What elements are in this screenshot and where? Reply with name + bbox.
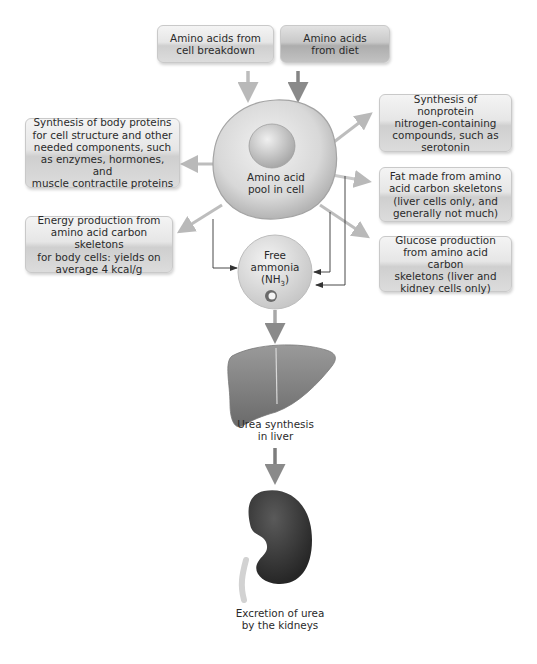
box-text-line: Amino acids bbox=[303, 32, 366, 44]
arrow-pool-to-glucose bbox=[320, 205, 365, 235]
label-line: Amino acid bbox=[236, 171, 316, 183]
line-glucose-to-ammonia bbox=[314, 212, 330, 272]
label-line: ammonia bbox=[240, 261, 310, 273]
box-text-line: average 4 kcal/g bbox=[30, 263, 168, 275]
box-amino-acids-cell-breakdown: Amino acids from cell breakdown bbox=[157, 25, 274, 63]
box-text-line: cell breakdown bbox=[170, 44, 261, 56]
label-line: Excretion of urea bbox=[225, 607, 335, 619]
box-text-line: from diet bbox=[303, 44, 366, 56]
box-text-line: Synthesis of nonprotein bbox=[384, 93, 507, 117]
box-text-line: for cell structure and other bbox=[30, 129, 175, 141]
box-text-line: as enzymes, hormones, and bbox=[30, 153, 175, 177]
label-line: Free bbox=[240, 249, 310, 261]
box-amino-acids-diet: Amino acids from diet bbox=[280, 25, 390, 63]
amino-acid-pool-label: Amino acid pool in cell bbox=[236, 171, 316, 195]
label-line: by the kidneys bbox=[225, 619, 335, 631]
box-text-line: Synthesis of body proteins bbox=[30, 116, 175, 128]
box-fat-from-amino-acids: Fat made from amino acid carbon skeleton… bbox=[379, 167, 512, 222]
box-text-line: generally not much) bbox=[389, 207, 502, 219]
box-text-line: amino acid carbon skeletons bbox=[30, 226, 168, 250]
label-line: Urea synthesis bbox=[228, 418, 323, 430]
box-text-line: nitrogen-containing bbox=[384, 117, 507, 129]
box-text-line: muscle contractile proteins bbox=[30, 177, 175, 189]
box-text-line: skeletons (liver and bbox=[384, 270, 507, 282]
box-glucose-production: Glucose production from amino acid carbo… bbox=[379, 236, 512, 292]
nh3-formula: (NH3) bbox=[240, 273, 310, 290]
box-synthesis-body-proteins: Synthesis of body proteins for cell stru… bbox=[25, 118, 180, 188]
formula-part: (NH bbox=[261, 273, 281, 285]
box-text-line: compounds, such as bbox=[384, 129, 507, 141]
label-line: in liver bbox=[228, 430, 323, 442]
excretion-label: Excretion of urea by the kidneys bbox=[225, 607, 335, 631]
free-ammonia-label: Free ammonia (NH3) bbox=[240, 249, 310, 291]
box-energy-production: Energy production from amino acid carbon… bbox=[25, 216, 173, 273]
box-text-line: (liver cells only, and bbox=[389, 195, 502, 207]
box-text-line: Glucose production bbox=[384, 234, 507, 246]
box-text-line: kidney cells only) bbox=[384, 282, 507, 294]
formula-part: ) bbox=[285, 273, 289, 285]
box-text-line: from amino acid carbon bbox=[384, 246, 507, 270]
arrow-pool-to-nonprotein bbox=[330, 116, 368, 145]
box-text-line: Energy production from bbox=[30, 214, 168, 226]
box-text-line: Fat made from amino bbox=[389, 170, 502, 182]
box-nonprotein-nitrogen-compounds: Synthesis of nonprotein nitrogen-contain… bbox=[379, 94, 512, 152]
arrow-pool-to-fat bbox=[332, 175, 366, 181]
box-text-line: serotonin bbox=[384, 141, 507, 153]
box-text-line: needed components, such bbox=[30, 141, 175, 153]
line-energy-to-ammonia bbox=[213, 219, 237, 268]
arrow-pool-to-energy bbox=[182, 205, 222, 230]
box-text-line: for body cells: yields on bbox=[30, 251, 168, 263]
urea-synthesis-label: Urea synthesis in liver bbox=[228, 418, 323, 442]
box-text-line: Amino acids from bbox=[170, 32, 261, 44]
box-text-line: acid carbon skeletons bbox=[389, 182, 502, 194]
liver-icon bbox=[228, 345, 336, 427]
amino-acid-pool-cell bbox=[213, 100, 337, 219]
label-line: pool in cell bbox=[236, 183, 316, 195]
kidney-icon bbox=[242, 490, 312, 600]
